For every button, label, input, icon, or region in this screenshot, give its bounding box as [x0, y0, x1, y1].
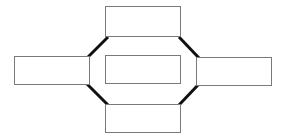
connector-bottom-right[interactable]: [179, 85, 198, 105]
center-box[interactable]: [105, 55, 181, 84]
connector-top-right[interactable]: [179, 37, 199, 58]
center-box-inner: [106, 56, 180, 83]
left-box[interactable]: [14, 56, 90, 85]
bottom-box-label: [106, 105, 180, 132]
top-box-label: [106, 7, 180, 36]
right-box[interactable]: [196, 57, 272, 86]
bottom-box[interactable]: [105, 104, 181, 133]
right-box-inner: [197, 58, 271, 85]
top-box[interactable]: [105, 6, 181, 37]
connector-left-bottom[interactable]: [87, 84, 108, 105]
diagram-canvas: [0, 0, 289, 139]
top-box-inner: [106, 7, 180, 36]
left-box-inner: [15, 57, 89, 84]
left-box-label: [15, 57, 89, 84]
bottom-box-inner: [106, 105, 180, 132]
right-box-label: [197, 58, 271, 85]
center-box-label: [106, 56, 180, 83]
